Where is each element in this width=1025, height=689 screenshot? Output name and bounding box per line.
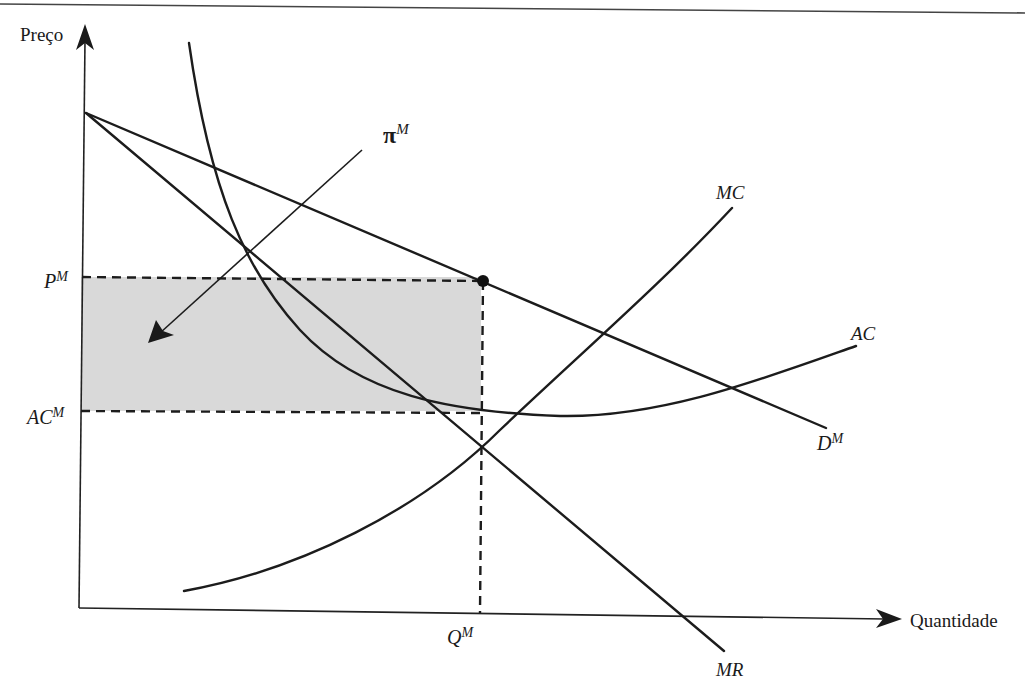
ac-m-guide bbox=[81, 411, 481, 413]
mr-label: MR bbox=[715, 659, 744, 680]
ac-label: AC bbox=[849, 323, 876, 344]
y-axis-label: Preço bbox=[20, 24, 63, 45]
p-m-label: PM bbox=[43, 269, 69, 292]
q-m-label: QM bbox=[447, 625, 474, 648]
d-m-label: DM bbox=[816, 431, 844, 454]
monopoly-profit-chart: Preço Quantidade PM ACM QM πM MC AC DM M… bbox=[0, 0, 1025, 689]
ac-m-label: ACM bbox=[25, 405, 66, 428]
pi-m-label: πM bbox=[383, 121, 410, 148]
profit-region bbox=[81, 277, 481, 411]
monopoly-point bbox=[477, 275, 489, 287]
top-border-line bbox=[0, 4, 1025, 13]
mc-label: MC bbox=[715, 182, 745, 203]
x-axis-label: Quantidade bbox=[910, 610, 998, 631]
x-axis bbox=[79, 608, 902, 628]
